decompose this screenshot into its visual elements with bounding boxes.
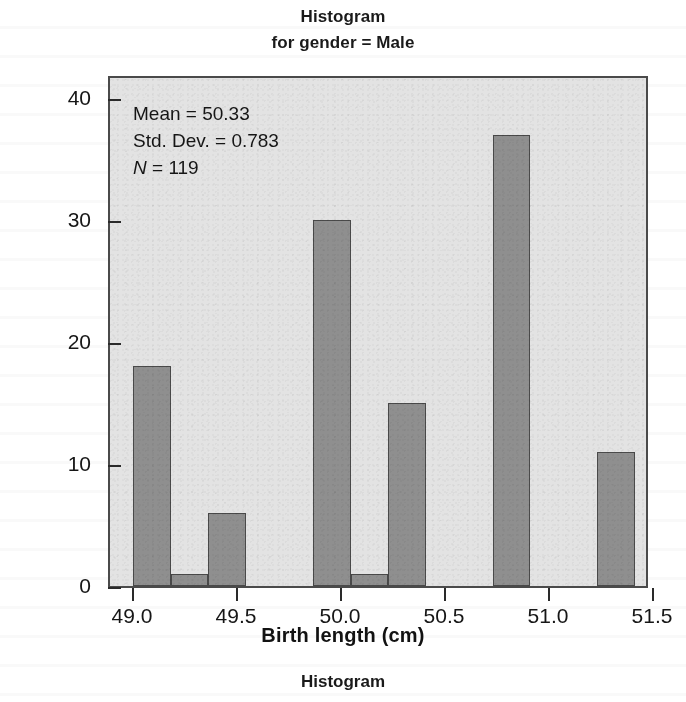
x-tick-mark bbox=[548, 588, 550, 601]
y-tick-label: 10 bbox=[31, 452, 91, 476]
bar-51.0 bbox=[493, 135, 531, 586]
x-tick-mark bbox=[444, 588, 446, 601]
y-tick-label: 40 bbox=[31, 86, 91, 110]
y-tick-mark bbox=[108, 465, 121, 467]
y-tick-label: 30 bbox=[31, 208, 91, 232]
figure-title: Histogram bbox=[0, 4, 686, 30]
bar-51.5 bbox=[597, 452, 635, 586]
bar-50.2 bbox=[351, 574, 389, 586]
x-axis-label: Birth length (cm) bbox=[0, 624, 686, 647]
x-tick-mark bbox=[236, 588, 238, 601]
bar-49.4 bbox=[208, 513, 246, 586]
mean-text: Mean = 50.33 bbox=[133, 100, 279, 127]
bar-49.2 bbox=[171, 574, 209, 586]
y-tick-mark bbox=[108, 343, 121, 345]
x-tick-mark bbox=[340, 588, 342, 601]
y-tick-mark bbox=[108, 221, 121, 223]
figure-title-block: Histogram for gender = Male bbox=[0, 4, 686, 56]
bar-49.0 bbox=[133, 366, 171, 586]
statistics-annotation: Mean = 50.33 Std. Dev. = 0.783 N = 119 bbox=[133, 100, 279, 181]
n-value: = 119 bbox=[147, 157, 199, 178]
next-figure-title: Histogram bbox=[0, 672, 686, 692]
std-dev-text: Std. Dev. = 0.783 bbox=[133, 127, 279, 154]
y-tick-label: 20 bbox=[31, 330, 91, 354]
sample-size-text: N = 119 bbox=[133, 154, 279, 181]
x-tick-mark bbox=[652, 588, 654, 601]
y-tick-label: 0 bbox=[31, 574, 91, 598]
figure-subtitle: for gender = Male bbox=[0, 30, 686, 56]
bar-50.0 bbox=[313, 220, 351, 586]
x-tick-mark bbox=[132, 588, 134, 601]
bar-50.4 bbox=[388, 403, 426, 586]
y-tick-mark bbox=[108, 99, 121, 101]
histogram-figure: Histogram for gender = Male Mean = 50.33… bbox=[0, 0, 686, 702]
n-symbol: N bbox=[133, 157, 147, 178]
y-tick-mark bbox=[108, 587, 121, 589]
